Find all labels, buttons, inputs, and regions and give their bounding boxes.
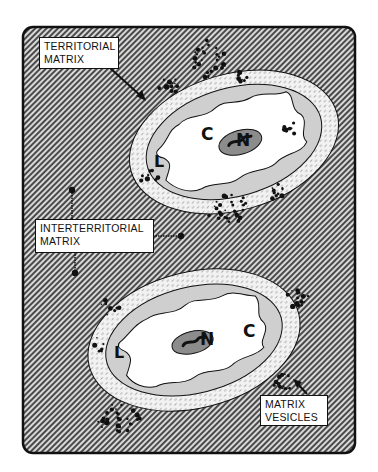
matrix-vesicle-dot — [92, 343, 97, 348]
matrix-vesicle-dot — [235, 213, 240, 218]
matrix-vesicle-dot — [131, 408, 136, 413]
matrix-vesicle-dot — [242, 196, 245, 199]
matrix-vesicle-dot — [192, 66, 196, 70]
matrix-vesicle-dot — [300, 301, 303, 304]
matrix-vesicle-dot — [113, 309, 116, 312]
matrix-vesicle-dot — [147, 174, 149, 176]
matrix-vesicle-dot — [292, 121, 295, 124]
matrix-vesicle-dot — [141, 174, 144, 177]
matrix-vesicle-dot — [207, 214, 211, 218]
matrix-vesicle-dot — [295, 301, 300, 306]
matrix-vesicle-dot — [275, 194, 278, 197]
matrix-vesicle-dot — [126, 418, 129, 421]
matrix-vesicle-dot — [97, 421, 99, 423]
matrix-vesicle-dot — [225, 195, 228, 198]
matrix-vesicle-dot — [105, 303, 108, 306]
matrix-vesicle-dot — [118, 417, 122, 421]
upper-lacuna-label: L — [154, 152, 164, 171]
matrix-vesicle-dot — [145, 176, 150, 181]
matrix-vesicle-dot — [154, 178, 157, 181]
matrix-vesicle-dot — [273, 384, 276, 387]
lower-cytoplasm-label: C — [243, 321, 255, 341]
matrix-vesicle-dot — [157, 177, 159, 179]
matrix-vesicle-dot — [270, 196, 275, 201]
matrix-vesicle-dot — [129, 408, 131, 410]
matrix-vesicle-dot — [286, 293, 290, 297]
matrix-vesicle-dot — [272, 189, 276, 193]
matrix-vesicle-dot — [241, 79, 243, 81]
matrix-vesicle-dot — [117, 430, 121, 434]
matrix-vesicle-dot — [110, 408, 114, 412]
matrix-vesicle-dot — [290, 304, 295, 309]
matrix-vesicle-dot — [148, 169, 151, 172]
lower-nucleus-label: N — [200, 329, 214, 349]
matrix-vesicle-dot — [172, 82, 174, 84]
matrix-vesicle-dot — [224, 209, 226, 211]
matrix-vesicle-dot — [230, 194, 233, 197]
matrix-vesicle-dot — [242, 204, 245, 207]
matrix-vesicle-dot — [215, 47, 217, 49]
matrix-vesicle-dot — [96, 337, 98, 339]
territorial-matrix-label-line2: MATRIX — [44, 53, 114, 66]
matrix-vesicle-dot — [218, 203, 222, 207]
matrix-vesicle-dot — [174, 90, 178, 94]
matrix-vesicle-dot — [282, 385, 284, 387]
matrix-vesicle-dot — [101, 351, 103, 353]
matrix-vesicle-dot — [196, 47, 200, 51]
matrix-vesicle-dot — [221, 62, 226, 67]
matrix-vesicle-dot — [106, 314, 108, 316]
matrix-vesicle-dot — [101, 426, 103, 428]
matrix-vesicle-dot — [287, 374, 290, 377]
matrix-vesicle-dot — [130, 423, 132, 425]
matrix-vesicle-dot — [102, 416, 106, 420]
matrix-vesicle-dot — [231, 204, 234, 207]
matrix-vesicle-dot — [291, 290, 293, 292]
matrix-vesicle-dot — [167, 79, 172, 84]
matrix-vesicle-dot — [243, 79, 246, 82]
interterritorial-matrix-label-line2: MATRIX — [40, 235, 149, 248]
matrix-vesicle-dot — [280, 373, 284, 377]
matrix-vesicle-dot — [206, 71, 209, 74]
interterritorial-dot-right — [178, 233, 184, 239]
matrix-vesicle-dot — [207, 44, 210, 47]
matrix-vesicle-dot — [111, 404, 113, 406]
matrix-vesicle-dot — [170, 85, 174, 89]
matrix-vesicle-dot — [117, 412, 120, 415]
matrix-vesicle-dot — [300, 304, 303, 307]
matrix-vesicle-dot — [102, 343, 104, 345]
matrix-vesicle-dot — [104, 421, 108, 425]
interterritorial-dot-down — [72, 270, 78, 276]
matrix-vesicle-dot — [138, 417, 142, 421]
matrix-vesicle-dot — [307, 295, 309, 297]
matrix-vesicle-dot — [194, 51, 196, 53]
matrix-vesicle-dot — [219, 212, 223, 216]
matrix-vesicle-dot — [216, 59, 219, 62]
matrix-vesicle-dot — [203, 75, 208, 80]
matrix-vesicle-dot — [288, 127, 292, 131]
matrix-vesicle-dot — [288, 387, 291, 390]
matrix-vesicle-dot — [277, 382, 281, 386]
matrix-vesicle-dot — [303, 301, 305, 303]
matrix-vesicle-dot — [242, 209, 245, 212]
territorial-matrix-label: TERRITORIAL MATRIX — [39, 37, 119, 69]
matrix-vesicle-dot — [126, 429, 130, 433]
matrix-vesicle-dot — [201, 47, 203, 49]
matrix-vesicle-dot — [194, 61, 197, 64]
matrix-vesicle-dot — [301, 294, 306, 299]
matrix-vesicle-dot — [240, 200, 243, 203]
matrix-vesicle-dot — [166, 85, 169, 88]
matrix-vesicle-dot — [236, 76, 241, 81]
interterritorial-dot-up — [69, 187, 75, 193]
matrix-vesicle-dot — [210, 69, 214, 73]
upper-nucleus-label: N — [236, 130, 250, 150]
matrix-vesicle-dot — [245, 76, 248, 79]
matrix-vesicle-dot — [116, 423, 121, 428]
matrix-vesicle-dot — [278, 376, 280, 378]
matrix-vesicle-dot — [205, 39, 209, 43]
matrix-vesicle-dot — [284, 373, 286, 375]
matrix-vesicle-dot — [277, 183, 280, 186]
matrix-vesicle-dot — [215, 53, 218, 56]
matrix-vesicle-dot — [201, 59, 203, 61]
matrix-vesicle-dot — [202, 50, 204, 52]
matrix-vesicle-dot — [157, 86, 161, 90]
